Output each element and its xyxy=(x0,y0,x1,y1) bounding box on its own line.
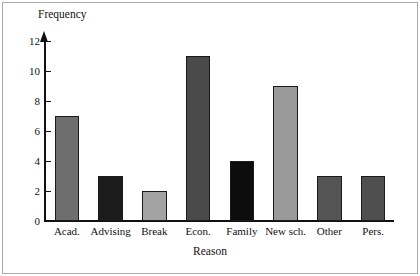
x-axis-tick-label: Other xyxy=(317,225,342,237)
x-axis-tick-label: Advising xyxy=(90,225,130,237)
y-axis-tick-label: 0 xyxy=(14,215,40,227)
y-axis-tick-label: 12 xyxy=(14,35,40,47)
bar-advising xyxy=(98,176,123,221)
y-axis-title: Frequency xyxy=(38,8,87,20)
x-axis-tick-label: Break xyxy=(141,225,167,237)
x-axis-tick-label: New sch. xyxy=(265,225,306,237)
x-axis-tick-label: Pers. xyxy=(362,225,384,237)
x-axis-tick-label: Acad. xyxy=(54,225,80,237)
plot-area xyxy=(45,41,395,221)
bar-break xyxy=(142,191,167,221)
y-axis-tick xyxy=(45,221,51,222)
bar-econ xyxy=(186,56,211,221)
x-axis-tick-label: Econ. xyxy=(185,225,210,237)
x-axis-tick-label: Family xyxy=(226,225,257,237)
bar-pers xyxy=(361,176,386,221)
bar-other xyxy=(317,176,342,221)
bar-acad xyxy=(55,116,80,221)
y-axis-tick-label: 10 xyxy=(14,65,40,77)
y-axis-tick-label: 4 xyxy=(14,155,40,167)
bar-family xyxy=(230,161,255,221)
x-axis-title: Reason xyxy=(0,245,420,257)
y-axis-tick-label: 6 xyxy=(14,125,40,137)
y-axis-tick-label: 2 xyxy=(14,185,40,197)
bar-chart-figure: Frequency 024681012 Acad.AdvisingBreakEc… xyxy=(0,0,420,276)
bar-new-sch xyxy=(273,86,298,221)
y-axis-tick-label: 8 xyxy=(14,95,40,107)
